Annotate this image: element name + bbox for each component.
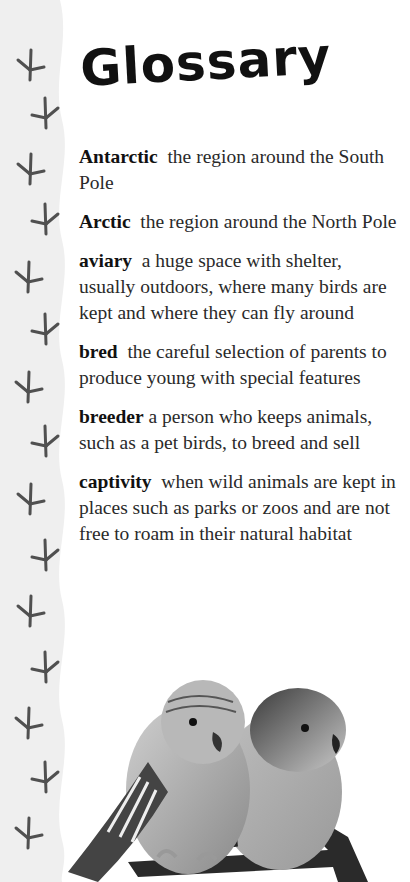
bird-footprint-icon bbox=[28, 202, 62, 236]
glossary-term: bred bbox=[79, 341, 118, 362]
glossary-entry: Arctic the region around the North Pole bbox=[79, 209, 399, 235]
bird-footprint-icon bbox=[14, 152, 48, 186]
glossary-term: captivity bbox=[79, 471, 152, 492]
left-budgie bbox=[68, 680, 250, 882]
bird-footprint-icon bbox=[28, 96, 62, 130]
glossary-term: Antarctic bbox=[79, 146, 158, 167]
bird-footprint-icon bbox=[14, 594, 48, 628]
bird-footprint-icon bbox=[28, 538, 62, 572]
glossary-definition: the region around the North Pole bbox=[140, 211, 396, 232]
glossary-entry: Antarctic the region around the South Po… bbox=[79, 144, 399, 196]
bird-footprint-icon bbox=[12, 370, 46, 404]
bird-footprint-icon bbox=[14, 482, 48, 516]
bird-footprint-icon bbox=[12, 260, 46, 294]
glossary-list: Antarctic the region around the South Po… bbox=[79, 144, 399, 560]
glossary-entry: bred the careful selection of parents to… bbox=[79, 339, 399, 391]
glossary-definition: the careful selection of parents to prod… bbox=[79, 341, 387, 388]
bird-footprint-icon bbox=[28, 312, 62, 346]
glossary-entry: captivity when wild animals are kept in … bbox=[79, 469, 399, 547]
budgerigars-photo bbox=[48, 672, 410, 882]
glossary-term: breeder bbox=[79, 406, 144, 427]
bird-footprint-icon bbox=[14, 48, 48, 82]
glossary-entry: breeder a person who keeps animals, such… bbox=[79, 404, 399, 456]
bird-footprint-icon bbox=[28, 424, 62, 458]
glossary-entry: aviary a huge space with shelter, usuall… bbox=[79, 248, 399, 326]
glossary-term: aviary bbox=[79, 250, 132, 271]
glossary-term: Arctic bbox=[79, 211, 131, 232]
bird-footprint-icon bbox=[12, 706, 46, 740]
page-title: Glossary bbox=[79, 27, 333, 98]
bird-footprint-icon bbox=[12, 816, 46, 850]
